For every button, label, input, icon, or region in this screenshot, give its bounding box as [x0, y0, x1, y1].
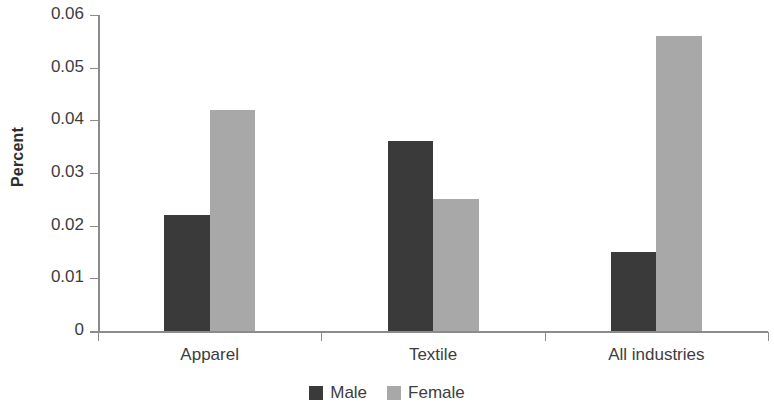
- y-tick-label: 0.06: [4, 4, 84, 24]
- x-tick-mark: [321, 332, 322, 341]
- x-category-label: All industries: [546, 345, 766, 365]
- bar-male-apparel: [164, 215, 210, 331]
- y-tick-label: 0.03: [4, 162, 84, 182]
- plot-area: [98, 15, 768, 331]
- y-tick-label: 0.02: [4, 215, 84, 235]
- bar-female-textile: [433, 199, 479, 331]
- x-category-label: Apparel: [100, 345, 320, 365]
- y-tick-mark: [90, 68, 98, 69]
- y-tick-label: 0: [4, 320, 84, 340]
- y-tick-label: 0.01: [4, 267, 84, 287]
- legend-swatch-male-icon: [309, 386, 323, 400]
- y-tick-mark: [90, 331, 98, 332]
- bar-chart: Percent 00.010.020.030.040.050.06 Appare…: [0, 0, 774, 407]
- y-tick-label: 0.04: [4, 109, 84, 129]
- y-tick-mark: [90, 15, 98, 16]
- legend-label: Female: [408, 383, 465, 403]
- y-tick-label-wrap: 0.01: [0, 267, 84, 287]
- y-tick-mark: [90, 278, 98, 279]
- y-tick-label: 0.05: [4, 57, 84, 77]
- y-tick-mark: [90, 173, 98, 174]
- x-tick-mark: [768, 332, 769, 341]
- y-tick-label-wrap: 0.06: [0, 4, 84, 24]
- x-tick-mark: [98, 332, 99, 341]
- x-tick-mark: [545, 332, 546, 341]
- y-tick-mark: [90, 226, 98, 227]
- chart-legend: MaleFemale: [0, 383, 774, 403]
- y-tick-label-wrap: 0.02: [0, 215, 84, 235]
- bar-female-all-industries: [656, 36, 702, 331]
- y-tick-mark: [90, 120, 98, 121]
- y-tick-label-wrap: 0: [0, 320, 84, 340]
- bar-male-textile: [388, 141, 434, 331]
- bar-female-apparel: [210, 110, 256, 331]
- x-axis-line: [90, 331, 768, 333]
- legend-swatch-female-icon: [387, 386, 401, 400]
- bar-male-all-industries: [611, 252, 657, 331]
- legend-item-female[interactable]: Female: [387, 383, 465, 403]
- legend-label: Male: [330, 383, 367, 403]
- y-tick-label-wrap: 0.04: [0, 109, 84, 129]
- x-category-label: Textile: [323, 345, 543, 365]
- y-tick-label-wrap: 0.03: [0, 162, 84, 182]
- y-tick-label-wrap: 0.05: [0, 57, 84, 77]
- legend-item-male[interactable]: Male: [309, 383, 367, 403]
